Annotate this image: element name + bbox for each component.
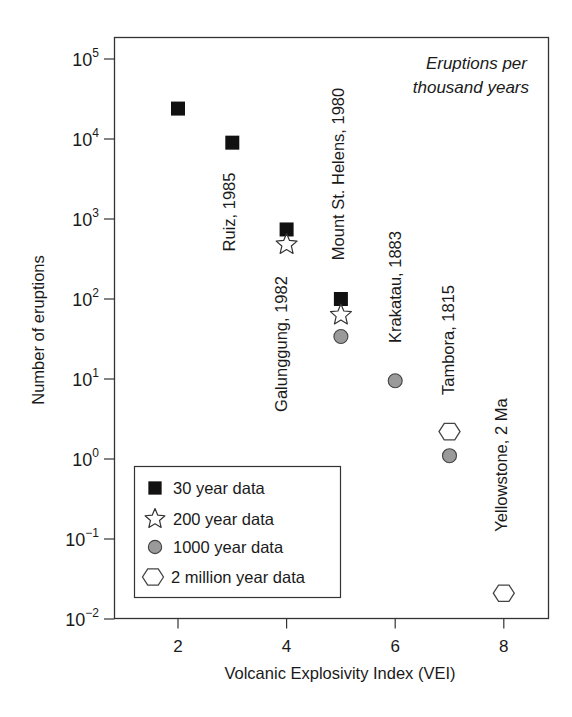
point-label: Krakatau, 1883	[386, 231, 404, 343]
point-label: Galunggung, 1982	[272, 276, 290, 412]
svg-text:Eruptions per: Eruptions per	[426, 54, 528, 73]
square-marker	[225, 136, 239, 150]
legend-label: 2 million year data	[171, 568, 306, 586]
y-tick-label: 101	[72, 366, 99, 390]
star-marker	[330, 304, 351, 324]
star-marker	[276, 234, 297, 254]
legend-square-icon	[148, 481, 161, 494]
legend-circle-icon	[148, 540, 161, 553]
circle-marker	[388, 374, 402, 388]
x-tick-label: 6	[390, 637, 399, 656]
hexagon-marker	[439, 423, 460, 439]
y-tick-label: 100	[72, 446, 99, 470]
point-label: Ruiz, 1985	[220, 173, 238, 252]
y-tick-label: 10−1	[65, 526, 99, 550]
point-label: Mount St. Helens, 1980	[329, 88, 347, 260]
circle-marker	[334, 329, 348, 343]
y-axis-ticks: 10510410310210110010−110−2	[65, 46, 114, 630]
x-axis-label: Volcanic Explosivity Index (VEI)	[224, 664, 455, 682]
y-tick-label: 105	[72, 46, 99, 70]
svg-text:thousand years: thousand years	[413, 78, 530, 97]
hexagon-marker	[493, 585, 514, 601]
x-tick-label: 2	[173, 637, 182, 656]
chart-annotation: Eruptions per thousand years	[413, 54, 530, 97]
circle-marker	[443, 449, 457, 463]
y-axis-label: Number of eruptions	[29, 255, 47, 405]
y-tick-label: 102	[72, 286, 99, 310]
legend-hexagon-icon	[143, 569, 164, 585]
eruption-frequency-chart: 10510410310210110010−110−2 2468 Number o…	[0, 0, 572, 717]
y-tick-label: 103	[72, 206, 99, 230]
y-tick-label: 104	[72, 126, 99, 150]
legend-label: 200 year data	[173, 510, 275, 528]
x-tick-label: 8	[499, 637, 508, 656]
y-tick-label: 10−2	[65, 606, 99, 630]
square-marker	[171, 102, 185, 116]
legend-label: 1000 year data	[173, 538, 284, 556]
point-label: Tambora, 1815	[439, 285, 457, 395]
point-label: Yellowstone, 2 Ma	[492, 398, 510, 532]
legend: 30 year data200 year data1000 year data2…	[135, 467, 341, 598]
x-axis-ticks: 2468	[173, 619, 508, 657]
point-labels: Ruiz, 1985Galunggung, 1982Mount St. Hele…	[220, 88, 510, 532]
x-tick-label: 4	[282, 637, 291, 656]
legend-label: 30 year data	[173, 479, 266, 497]
